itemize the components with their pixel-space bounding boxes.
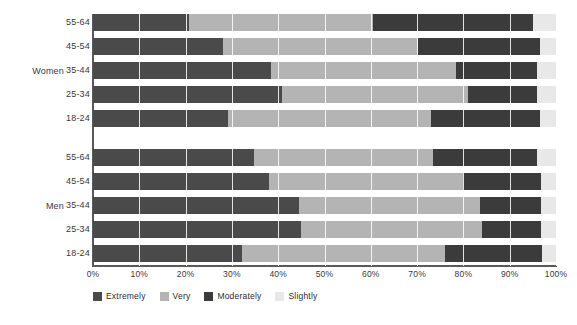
category-label: 45-54 <box>48 41 90 52</box>
x-tick-label: 10% <box>130 269 148 279</box>
x-tick-label: 60% <box>362 269 380 279</box>
bar-segment-slightly[interactable] <box>541 173 556 190</box>
x-tick-label: 100% <box>545 269 568 279</box>
bar-segment-very[interactable] <box>299 197 480 214</box>
bar-segment-extremely[interactable] <box>93 62 271 79</box>
legend-swatch-icon <box>160 292 169 301</box>
bar-segment-moderately[interactable] <box>431 110 540 127</box>
x-tick-label: 80% <box>455 269 473 279</box>
bar-segment-very[interactable] <box>301 221 482 238</box>
bar-segment-very[interactable] <box>223 38 418 55</box>
legend-item-extremely[interactable]: Extremely <box>93 291 146 301</box>
bar-segment-slightly[interactable] <box>537 86 556 103</box>
category-label: 25-34 <box>48 89 90 100</box>
x-tick-label: 0% <box>87 269 100 279</box>
gridline <box>232 14 233 266</box>
bar-segment-extremely[interactable] <box>93 38 223 55</box>
gridline <box>325 14 326 266</box>
category-label: 45-54 <box>48 176 90 187</box>
category-label: 18-24 <box>48 248 90 259</box>
bar-segment-very[interactable] <box>271 62 456 79</box>
bar-segment-very[interactable] <box>242 245 445 262</box>
chart-legend: ExtremelyVeryModeratelySlightly <box>93 291 317 301</box>
gridline <box>186 14 187 266</box>
bar-segment-moderately[interactable] <box>456 62 537 79</box>
gridline <box>417 14 418 266</box>
bar-segment-extremely[interactable] <box>93 245 242 262</box>
category-label: 55-64 <box>48 17 90 28</box>
gridline <box>510 14 511 266</box>
x-tick-label: 70% <box>408 269 426 279</box>
bar-segment-very[interactable] <box>282 86 468 103</box>
bar-segment-slightly[interactable] <box>542 245 556 262</box>
bar-segment-moderately[interactable] <box>433 149 538 166</box>
bar-segment-very[interactable] <box>254 149 433 166</box>
category-label: 35-44 <box>48 200 90 211</box>
legend-item-very[interactable]: Very <box>160 291 191 301</box>
bar-segment-extremely[interactable] <box>93 149 254 166</box>
bar-segment-extremely[interactable] <box>93 221 301 238</box>
bar-segment-moderately[interactable] <box>463 173 540 190</box>
x-tick-label: 50% <box>316 269 334 279</box>
gridline <box>463 14 464 266</box>
gridline <box>556 14 557 266</box>
category-label: 55-64 <box>48 152 90 163</box>
legend-label: Extremely <box>106 291 146 301</box>
bar-segment-extremely[interactable] <box>93 86 282 103</box>
bar-segment-extremely[interactable] <box>93 173 269 190</box>
legend-label: Moderately <box>217 291 261 301</box>
gridline <box>371 14 372 266</box>
gridline <box>139 14 140 266</box>
x-tick-label: 20% <box>177 269 195 279</box>
bar-segment-extremely[interactable] <box>93 110 228 127</box>
x-tick-label: 40% <box>269 269 287 279</box>
bar-segment-slightly[interactable] <box>537 149 556 166</box>
category-label: 25-34 <box>48 224 90 235</box>
legend-item-moderately[interactable]: Moderately <box>204 291 261 301</box>
legend-label: Slightly <box>288 291 317 301</box>
bar-segment-slightly[interactable] <box>540 38 556 55</box>
x-tick-label: 90% <box>501 269 519 279</box>
legend-item-slightly[interactable]: Slightly <box>275 291 317 301</box>
bar-segment-moderately[interactable] <box>445 245 542 262</box>
bar-segment-moderately[interactable] <box>482 221 541 238</box>
bar-segment-very[interactable] <box>269 173 463 190</box>
plot-area <box>93 14 556 266</box>
bar-segment-very[interactable] <box>228 110 431 127</box>
bar-segment-slightly[interactable] <box>537 62 556 79</box>
bar-segment-moderately[interactable] <box>468 86 537 103</box>
legend-label: Very <box>173 291 191 301</box>
bar-segment-extremely[interactable] <box>93 197 299 214</box>
category-axis: 55-6445-5435-4425-3418-2455-6445-5435-44… <box>42 14 90 266</box>
gridline <box>278 14 279 266</box>
bar-segment-slightly[interactable] <box>541 197 556 214</box>
bar-segment-slightly[interactable] <box>533 14 556 31</box>
category-label: 18-24 <box>48 113 90 124</box>
bar-segment-moderately[interactable] <box>418 38 540 55</box>
bar-segment-slightly[interactable] <box>541 221 556 238</box>
bar-segment-slightly[interactable] <box>540 110 556 127</box>
legend-swatch-icon <box>204 292 213 301</box>
legend-swatch-icon <box>275 292 284 301</box>
bar-segment-very[interactable] <box>189 14 373 31</box>
stacked-bar-chart: Women Men 55-6445-5435-4425-3418-2455-64… <box>0 0 577 325</box>
legend-swatch-icon <box>93 292 102 301</box>
x-tick-label: 30% <box>223 269 241 279</box>
bar-segment-extremely[interactable] <box>93 14 189 31</box>
category-label: 35-44 <box>48 65 90 76</box>
